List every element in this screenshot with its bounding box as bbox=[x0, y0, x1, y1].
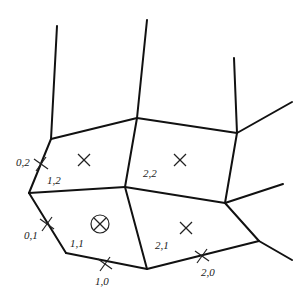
mesh-edge bbox=[225, 203, 259, 241]
mesh-edge bbox=[237, 102, 292, 133]
mesh-edge bbox=[259, 241, 292, 260]
mesh-edge bbox=[137, 20, 147, 118]
cell-index-label: 0,2 bbox=[16, 156, 30, 168]
mesh-edge bbox=[234, 58, 237, 133]
mesh-edge bbox=[125, 187, 225, 203]
cell-index-label: 1,2 bbox=[47, 174, 61, 186]
cell-index-label: 1,0 bbox=[95, 275, 109, 287]
mesh-edge bbox=[137, 118, 237, 133]
cell-index-label: 0,1 bbox=[24, 229, 38, 241]
x-marker-icon bbox=[174, 154, 186, 166]
cell-index-label: 2,0 bbox=[201, 266, 215, 278]
circled-x-marker-icon bbox=[91, 215, 109, 233]
mesh-edge bbox=[51, 118, 137, 139]
mesh-edge bbox=[51, 26, 57, 139]
cell-index-label: 1,1 bbox=[70, 237, 84, 249]
edge-cross-marker-icon bbox=[34, 157, 48, 171]
mesh-edges bbox=[29, 20, 292, 269]
cell-index-label: 2,1 bbox=[155, 239, 169, 251]
mesh-edge bbox=[125, 187, 147, 269]
x-marker-icon bbox=[78, 154, 90, 166]
cell-index-label: 2,2 bbox=[143, 167, 157, 179]
x-marker-icon bbox=[180, 222, 192, 234]
mesh-edge bbox=[225, 133, 237, 203]
mesh-edge bbox=[29, 187, 125, 193]
cell-mesh-diagram: 0,21,22,20,11,12,11,02,0 bbox=[0, 0, 307, 300]
mesh-edge bbox=[125, 118, 137, 187]
mesh-edge bbox=[225, 184, 283, 203]
